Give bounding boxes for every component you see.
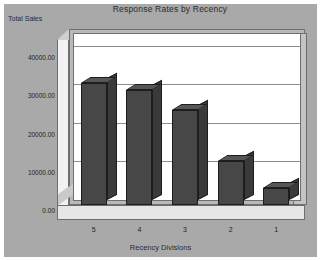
y-axis-label: Total Sales bbox=[8, 15, 42, 22]
bar-front-face bbox=[126, 90, 152, 205]
x-axis-tick-labels: 54321 bbox=[57, 226, 307, 238]
y-axis-tick-label: 40000.00 bbox=[0, 54, 55, 61]
bars-group bbox=[73, 33, 301, 205]
bar-4[interactable] bbox=[126, 90, 152, 205]
plot-area bbox=[57, 29, 307, 221]
y-axis-slab-top bbox=[57, 29, 69, 40]
bar-side-face bbox=[152, 80, 162, 200]
y-axis-tick-label: 0.00 bbox=[0, 207, 55, 214]
y-axis-tick-label: 30000.00 bbox=[0, 92, 55, 99]
x-axis-tick-label: 1 bbox=[264, 226, 288, 233]
bar-5[interactable] bbox=[81, 83, 107, 205]
x-axis-tick-label: 4 bbox=[127, 226, 151, 233]
bar-front-face bbox=[172, 110, 198, 205]
x-axis-tick-label: 3 bbox=[173, 226, 197, 233]
bar-front-face bbox=[81, 83, 107, 205]
chart-title: Response Rates by Recency bbox=[80, 4, 260, 14]
y-axis-tick-labels: 40000.0030000.0020000.0010000.000.00 bbox=[0, 29, 55, 229]
bar-3[interactable] bbox=[172, 110, 198, 205]
bar-side-face bbox=[107, 73, 117, 200]
plot-floor bbox=[57, 205, 305, 220]
x-axis-label: Recency Divisions bbox=[0, 243, 321, 252]
bar-front-face bbox=[218, 161, 244, 205]
bar-front-face bbox=[263, 188, 289, 205]
bar-side-face bbox=[289, 178, 299, 200]
bar-2[interactable] bbox=[218, 161, 244, 205]
bar-1[interactable] bbox=[263, 188, 289, 205]
bar-side-face bbox=[198, 99, 208, 200]
x-axis-tick-label: 5 bbox=[82, 226, 106, 233]
y-axis-tick-label: 10000.00 bbox=[0, 169, 55, 176]
y-axis-tick-label: 20000.00 bbox=[0, 131, 55, 138]
chart-container: Response Rates by Recency Total Sales Re… bbox=[0, 0, 321, 261]
x-axis-tick-label: 2 bbox=[219, 226, 243, 233]
